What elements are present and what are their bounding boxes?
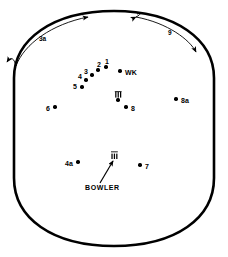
fielder-2-dot (96, 68, 99, 71)
bowler-label: BOWLER (85, 184, 120, 191)
fielder-7-dot (138, 163, 141, 166)
fielder-4a-label: 4a (65, 160, 73, 167)
fielder-8-label: 8 (131, 105, 135, 112)
fielder-7-label: 7 (145, 163, 149, 170)
fielder-5-label: 5 (73, 83, 77, 90)
fielder-1-label: 1 (105, 58, 109, 65)
cricket-field-diagram: 123456788a4a WK 3a 9 BOWLER (0, 0, 228, 257)
fielder-3-dot (90, 73, 93, 76)
fielder-3-label: 3 (84, 68, 88, 75)
fielder-8a-dot (174, 97, 177, 100)
boundary-rope (14, 11, 214, 246)
fielder-8a-label: 8a (181, 97, 189, 104)
fielder-6-dot (53, 105, 56, 108)
fielder-2-label: 2 (97, 61, 101, 68)
fielder-8-dot (124, 105, 127, 108)
fielder-6-label: 6 (46, 105, 50, 112)
striker-dot (116, 98, 119, 101)
fielder-5-dot (80, 85, 83, 88)
fielder-4a-dot (76, 160, 79, 163)
arc-label-right: 9 (168, 30, 172, 37)
field-svg-canvas (0, 0, 228, 257)
wicket-keeper-label: WK (125, 69, 137, 76)
wicket-keeper-dot (118, 69, 121, 72)
striker-stumps-icon (115, 91, 122, 97)
fielder-4-label: 4 (78, 73, 82, 80)
arc-label-left: 3a (39, 36, 46, 43)
fielder-1-dot (104, 65, 107, 68)
fielder-4-dot (84, 78, 87, 81)
